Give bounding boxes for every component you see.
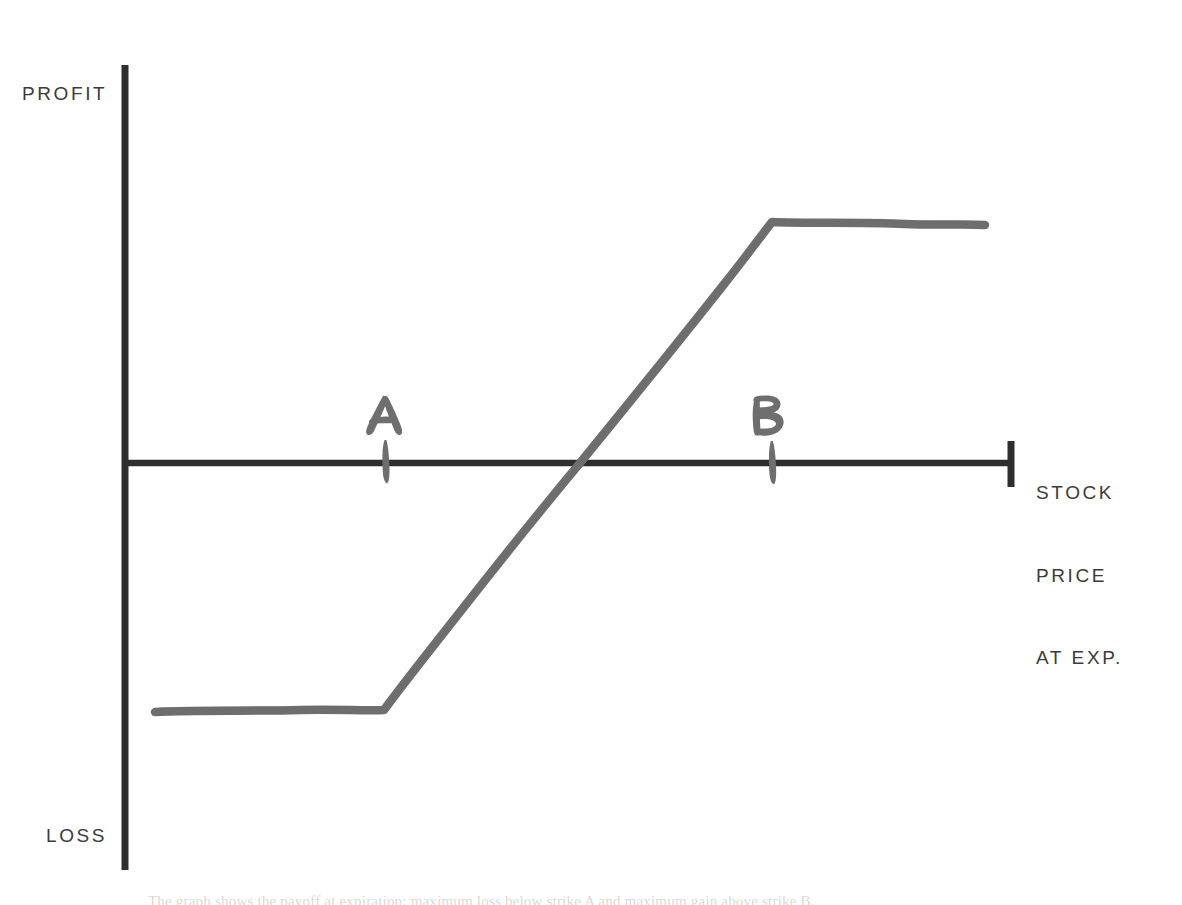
payoff-curve [155,222,985,712]
marker-a-glyph [366,396,402,435]
x-axis-label: STOCK PRICE AT EXP. [1036,424,1123,727]
x-axis-label-line-3: AT EXP. [1036,644,1123,672]
strike-a-tick [382,440,389,483]
payoff-diagram-figure: PROFIT LOSS STOCK PRICE AT EXP. The grap… [0,0,1182,905]
x-axis-label-line-2: PRICE [1036,562,1123,590]
marker-b-glyph [753,395,784,435]
x-axis-label-line-1: STOCK [1036,479,1123,507]
strike-b-tick [769,441,776,484]
bottom-caption: The graph shows the payoff at expiration… [148,893,868,905]
payoff-chart-canvas [0,0,1182,905]
y-axis-loss-label: LOSS [46,826,107,845]
y-axis-profit-label: PROFIT [22,84,107,103]
